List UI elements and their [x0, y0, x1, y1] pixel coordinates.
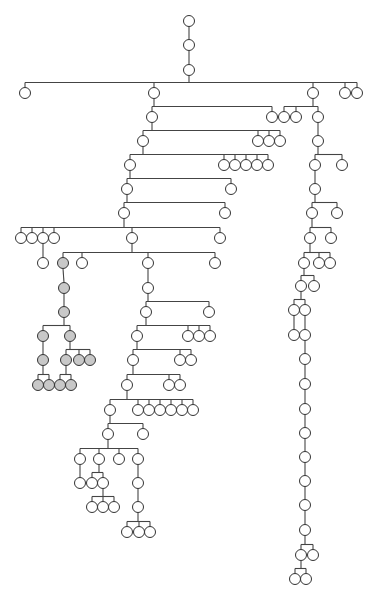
- tree-node: [155, 405, 166, 416]
- tree-node: [133, 502, 144, 513]
- tree-node: [263, 160, 274, 171]
- tree-node: [308, 88, 319, 99]
- tree-node: [122, 380, 133, 391]
- tree-node: [122, 527, 133, 538]
- tree-edge: [63, 269, 64, 283]
- tree-node: [308, 550, 319, 561]
- tree-node: [133, 405, 144, 416]
- tree-node: [296, 550, 307, 561]
- tree-node: [275, 136, 286, 147]
- tree-node: [127, 233, 138, 244]
- tree-node: [215, 233, 226, 244]
- tree-node: [164, 380, 175, 391]
- tree-node: [16, 233, 27, 244]
- tree-node: [98, 478, 109, 489]
- tree-node: [186, 355, 197, 366]
- tree-node: [105, 405, 116, 416]
- tree-node: [194, 331, 205, 342]
- tree-node: [145, 527, 156, 538]
- tree-node: [337, 160, 348, 171]
- tree-node: [109, 502, 120, 513]
- tree-node: [149, 88, 160, 99]
- tree-node: [49, 233, 60, 244]
- tree-node: [98, 502, 109, 513]
- tree-node: [75, 454, 86, 465]
- tree-node: [141, 307, 152, 318]
- tree-node: [267, 112, 278, 123]
- tree-node: [340, 88, 351, 99]
- tree-node: [133, 478, 144, 489]
- tree-node: [133, 454, 144, 465]
- tree-node: [143, 283, 154, 294]
- tree-node: [144, 405, 155, 416]
- tree-nodes: [16, 16, 363, 585]
- tree-node: [103, 429, 114, 440]
- shaded-node: [61, 355, 72, 366]
- tree-diagram: [0, 0, 374, 597]
- tree-node: [309, 281, 320, 292]
- shaded-node: [33, 380, 44, 391]
- tree-node: [326, 233, 337, 244]
- tree-node: [264, 136, 275, 147]
- tree-node: [87, 502, 98, 513]
- shaded-node: [74, 355, 85, 366]
- tree-node: [300, 452, 311, 463]
- tree-node: [138, 136, 149, 147]
- tree-node: [219, 160, 230, 171]
- tree-node: [27, 233, 38, 244]
- tree-node: [313, 136, 324, 147]
- tree-node: [166, 405, 177, 416]
- tree-node: [307, 208, 318, 219]
- tree-node: [210, 258, 221, 269]
- tree-node: [230, 160, 241, 171]
- tree-node: [289, 330, 300, 341]
- tree-node: [296, 281, 307, 292]
- tree-node: [20, 88, 31, 99]
- tree-node: [325, 258, 336, 269]
- tree-node: [184, 16, 195, 27]
- tree-node: [310, 184, 321, 195]
- tree-node: [220, 208, 231, 219]
- tree-node: [300, 500, 311, 511]
- shaded-node: [66, 380, 77, 391]
- tree-node: [177, 405, 188, 416]
- tree-node: [143, 258, 154, 269]
- tree-node: [128, 355, 139, 366]
- tree-node: [205, 331, 216, 342]
- tree-node: [300, 428, 311, 439]
- tree-edges: [21, 27, 357, 574]
- tree-node: [226, 184, 237, 195]
- tree-node: [290, 574, 301, 585]
- tree-node: [310, 160, 321, 171]
- tree-node: [38, 233, 49, 244]
- tree-node: [300, 305, 311, 316]
- tree-node: [122, 184, 133, 195]
- tree-node: [279, 112, 290, 123]
- shaded-node: [38, 355, 49, 366]
- shaded-node: [59, 283, 70, 294]
- tree-node: [175, 380, 186, 391]
- tree-node: [134, 527, 145, 538]
- shaded-node: [38, 331, 49, 342]
- tree-node: [301, 574, 312, 585]
- tree-node: [289, 305, 300, 316]
- tree-node: [252, 160, 263, 171]
- tree-node: [147, 112, 158, 123]
- tree-node: [291, 112, 302, 123]
- tree-node: [300, 330, 311, 341]
- tree-node: [241, 160, 252, 171]
- tree-node: [300, 354, 311, 365]
- tree-node: [183, 331, 194, 342]
- tree-node: [300, 404, 311, 415]
- tree-node: [87, 478, 98, 489]
- shaded-node: [55, 380, 66, 391]
- tree-node: [119, 208, 130, 219]
- tree-node: [132, 331, 143, 342]
- shaded-node: [59, 307, 70, 318]
- tree-node: [314, 258, 325, 269]
- tree-node: [204, 307, 215, 318]
- tree-node: [184, 65, 195, 76]
- tree-node: [77, 258, 88, 269]
- tree-node: [299, 258, 310, 269]
- shaded-node: [65, 331, 76, 342]
